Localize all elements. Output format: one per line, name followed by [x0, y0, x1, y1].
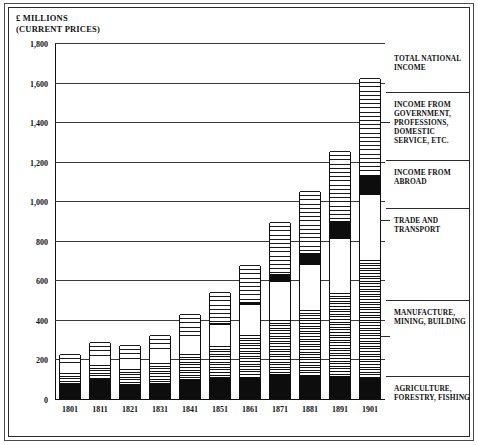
bar-1811 — [89, 343, 111, 400]
bar-segment — [210, 292, 230, 323]
x-axis-tick-1871: 1871 — [265, 405, 295, 414]
bar-segment — [300, 375, 320, 399]
legend-separator — [386, 92, 470, 93]
bar-segment — [150, 363, 170, 383]
page-title: £ MILLIONS — [16, 13, 68, 24]
bar-segment — [60, 366, 80, 374]
plot-area — [55, 44, 385, 400]
bar-segment — [270, 320, 290, 374]
legend-leader-line — [380, 122, 390, 123]
bar-segment — [270, 274, 290, 282]
y-axis-tick-label: 1,200 — [30, 158, 48, 167]
bar-segment — [360, 195, 380, 259]
bar-1901 — [359, 79, 381, 400]
bar-segment — [120, 345, 140, 359]
bar-1881 — [299, 192, 321, 400]
bar-segment — [120, 384, 140, 399]
bar-segment — [330, 239, 350, 293]
x-axis-tick-1841: 1841 — [175, 405, 205, 414]
bar-segment — [300, 191, 320, 252]
y-axis-tick-label: 200 — [36, 356, 48, 365]
x-axis-tick-1901: 1901 — [355, 405, 385, 414]
bar-segment — [240, 377, 260, 399]
bar-segment — [240, 335, 260, 378]
bar-segment — [270, 282, 290, 320]
y-axis-tick-label: 1,000 — [30, 198, 48, 207]
legend-separator — [386, 376, 470, 377]
bar-segment — [330, 376, 350, 399]
bar-segment — [180, 379, 200, 399]
bar-segment — [60, 373, 80, 384]
y-axis-tick-label: 1,800 — [30, 40, 48, 49]
x-axis-tick-1881: 1881 — [295, 405, 325, 414]
bar-segment — [330, 221, 350, 239]
legend-item-label: INCOME FROM GOVERNMENT, PROFESSIONS, DOM… — [394, 100, 470, 145]
x-axis-labels: 1801181118211831184118511861187118811891… — [55, 403, 385, 419]
x-axis-tick-1891: 1891 — [325, 405, 355, 414]
chart-page: £ MILLIONS (CURRENT PRICES) 020040060080… — [0, 0, 478, 445]
bar-1861 — [239, 266, 261, 400]
gridline — [55, 122, 385, 123]
gridline — [55, 83, 385, 84]
bar-segment — [180, 339, 200, 354]
bar-segment — [60, 384, 80, 399]
page-subtitle: (CURRENT PRICES) — [16, 24, 100, 35]
legend-item-label: INCOME FROM ABROAD — [394, 168, 470, 186]
bar-segment — [360, 378, 380, 399]
bar-1821 — [119, 346, 141, 400]
bar-segment — [60, 354, 80, 366]
bar-1801 — [59, 355, 81, 400]
bar-segment — [300, 265, 320, 310]
bar-segment — [210, 346, 230, 379]
bar-1871 — [269, 223, 291, 400]
bar-segment — [150, 383, 170, 399]
bar-segment — [180, 354, 200, 379]
legend-separator — [386, 208, 470, 209]
bar-segment — [240, 302, 260, 305]
bar-segment — [120, 369, 140, 384]
x-axis-tick-1831: 1831 — [145, 405, 175, 414]
bar-segment — [270, 222, 290, 274]
bar-segment — [240, 265, 260, 302]
bar-segment — [240, 305, 260, 335]
bar-segment — [330, 293, 350, 376]
legend-item-label: TRADE AND TRANSPORT — [394, 216, 470, 234]
legend-item-label: MANUFACTURE, MINING, BUILDING — [394, 308, 470, 326]
bar-segment — [180, 314, 200, 339]
bar-segment — [150, 352, 170, 363]
y-axis-line — [55, 44, 56, 400]
bar-segment — [210, 378, 230, 399]
y-axis-tick-label: 1,400 — [30, 119, 48, 128]
bar-segment — [360, 260, 380, 379]
bar-segment — [330, 151, 350, 221]
bar-segment — [90, 365, 110, 377]
bar-segment — [270, 374, 290, 399]
y-axis-tick-label: 0 — [44, 396, 48, 405]
legend-separator — [386, 160, 470, 161]
x-axis-tick-1851: 1851 — [205, 405, 235, 414]
legend-leader-line — [380, 336, 390, 337]
y-axis-labels: 02004006008001,0001,2001,4001,6001,800 — [0, 44, 48, 400]
bar-segment — [90, 378, 110, 399]
bar-segment — [360, 78, 380, 175]
bar-segment — [120, 359, 140, 369]
bar-1841 — [179, 315, 201, 400]
bar-segment — [210, 325, 230, 346]
y-axis-tick-label: 1,600 — [30, 79, 48, 88]
y-axis-tick-label: 600 — [36, 277, 48, 286]
y-axis-tick-label: 800 — [36, 237, 48, 246]
gridline — [55, 43, 385, 44]
legend-item-label: AGRICULTURE, FORESTRY, FISHING — [394, 384, 470, 402]
y-axis-tick-label: 400 — [36, 316, 48, 325]
bar-segment — [360, 175, 380, 196]
bar-1831 — [149, 336, 171, 400]
x-axis-tick-1811: 1811 — [85, 405, 115, 414]
x-axis-tick-1821: 1821 — [115, 405, 145, 414]
bar-segment — [210, 323, 230, 325]
x-axis-tick-1861: 1861 — [235, 405, 265, 414]
x-axis-tick-1801: 1801 — [55, 405, 85, 414]
bar-segment — [300, 253, 320, 265]
chart-legend: TOTAL NATIONAL INCOMEINCOME FROM GOVERNM… — [388, 44, 470, 414]
legend-separator — [386, 300, 470, 301]
bar-segment — [150, 335, 170, 352]
